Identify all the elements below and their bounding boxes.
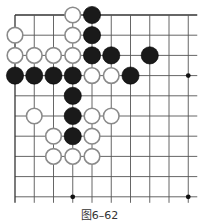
white-stone (65, 149, 81, 165)
star-point (70, 194, 75, 199)
white-stone (103, 68, 119, 84)
white-stone (26, 48, 42, 64)
white-stone (103, 108, 119, 124)
star-point (186, 194, 191, 199)
black-stone (103, 47, 120, 64)
black-stone (141, 47, 158, 64)
figure-caption: 图6–62 (0, 206, 199, 222)
black-stone (45, 67, 62, 84)
star-point (186, 73, 191, 78)
white-stone (84, 108, 100, 124)
black-stone (64, 128, 81, 145)
white-stone (65, 48, 81, 64)
black-stone (83, 27, 100, 44)
white-stone (84, 149, 100, 165)
black-stone (83, 47, 100, 64)
black-stone (83, 6, 100, 23)
white-stone (84, 68, 100, 84)
black-stone (26, 67, 43, 84)
white-stone (46, 128, 62, 144)
black-stone (64, 67, 81, 84)
go-board (0, 0, 199, 205)
black-stone (64, 87, 81, 104)
white-stone (7, 27, 23, 43)
white-stone (65, 7, 81, 23)
white-stone (46, 48, 62, 64)
black-stone (64, 107, 81, 124)
white-stone (84, 128, 100, 144)
white-stone (26, 108, 42, 124)
black-stone (6, 67, 23, 84)
white-stone (7, 48, 23, 64)
stones-layer (6, 6, 158, 164)
white-stone (46, 149, 62, 165)
black-stone (122, 67, 139, 84)
board-grid (15, 15, 197, 203)
white-stone (65, 27, 81, 43)
